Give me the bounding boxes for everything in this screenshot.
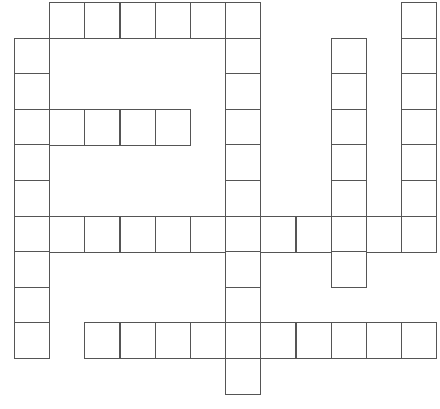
crossword-cell[interactable] (260, 322, 296, 359)
crossword-cell[interactable] (331, 251, 367, 288)
crossword-cell[interactable] (120, 109, 156, 146)
crossword-cell[interactable] (401, 144, 437, 181)
crossword-cell[interactable] (84, 322, 120, 359)
crossword-cell[interactable] (401, 2, 437, 39)
crossword-cell[interactable] (190, 322, 226, 359)
crossword-cell[interactable] (225, 251, 261, 288)
crossword-cell[interactable] (14, 251, 50, 288)
crossword-cell[interactable] (260, 216, 296, 253)
crossword-cell[interactable] (14, 38, 50, 75)
crossword-cell[interactable] (331, 38, 367, 75)
crossword-cell[interactable] (225, 144, 261, 181)
crossword-cell[interactable] (225, 287, 261, 324)
crossword-cell[interactable] (155, 322, 191, 359)
crossword-cell[interactable] (331, 322, 367, 359)
crossword-cell[interactable] (401, 109, 437, 146)
crossword-cell[interactable] (49, 216, 85, 253)
crossword-cell[interactable] (331, 180, 367, 217)
crossword-cell[interactable] (84, 216, 120, 253)
crossword-cell[interactable] (225, 358, 261, 395)
crossword-cell[interactable] (331, 144, 367, 181)
crossword-cell[interactable] (14, 73, 50, 110)
crossword-cell[interactable] (14, 322, 50, 359)
crossword-cell[interactable] (84, 2, 120, 39)
crossword-cell[interactable] (225, 180, 261, 217)
crossword-cell[interactable] (14, 109, 50, 146)
crossword-cell[interactable] (225, 216, 261, 253)
crossword-cell[interactable] (401, 180, 437, 217)
crossword-cell[interactable] (401, 38, 437, 75)
crossword-cell[interactable] (225, 109, 261, 146)
crossword-cell[interactable] (401, 216, 437, 253)
crossword-cell[interactable] (401, 322, 437, 359)
crossword-cell[interactable] (14, 287, 50, 324)
crossword-cell[interactable] (331, 73, 367, 110)
crossword-cell[interactable] (120, 322, 156, 359)
crossword-cell[interactable] (14, 180, 50, 217)
crossword-cell[interactable] (296, 216, 332, 253)
crossword-cell[interactable] (14, 144, 50, 181)
crossword-cell[interactable] (225, 38, 261, 75)
crossword-cell[interactable] (331, 216, 367, 253)
crossword-cell[interactable] (49, 2, 85, 39)
crossword-cell[interactable] (225, 73, 261, 110)
crossword-cell[interactable] (190, 216, 226, 253)
crossword-cell[interactable] (225, 322, 261, 359)
crossword-cell[interactable] (296, 322, 332, 359)
crossword-cell[interactable] (225, 2, 261, 39)
crossword-cell[interactable] (120, 2, 156, 39)
crossword-grid (0, 0, 440, 409)
crossword-cell[interactable] (155, 216, 191, 253)
crossword-cell[interactable] (331, 109, 367, 146)
crossword-cell[interactable] (120, 216, 156, 253)
crossword-cell[interactable] (401, 73, 437, 110)
crossword-cell[interactable] (155, 2, 191, 39)
crossword-cell[interactable] (366, 216, 402, 253)
crossword-cell[interactable] (366, 322, 402, 359)
crossword-cell[interactable] (14, 216, 50, 253)
crossword-cell[interactable] (190, 2, 226, 39)
crossword-cell[interactable] (84, 109, 120, 146)
crossword-cell[interactable] (155, 109, 191, 146)
crossword-cell[interactable] (49, 109, 85, 146)
